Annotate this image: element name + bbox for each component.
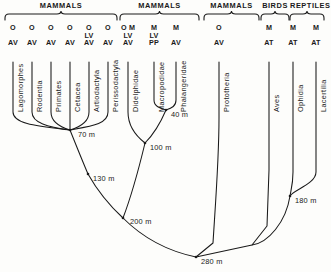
taxon-perissodactyla-name: Perissodactyla [111, 60, 120, 112]
taxon-rodentia-name: Rodentia [35, 80, 44, 112]
group-mammals-placental-bracket [5, 11, 117, 20]
node-100m-dot [144, 142, 147, 145]
taxon-cetacea-name: Cetacea [73, 82, 82, 112]
taxon-phalangeridae-code-0: M [162, 24, 190, 32]
group-mammals-prototheria-bracket [204, 11, 259, 20]
group-reptiles-label: REPTILES [290, 2, 324, 10]
taxon-didelphidae-code-2: AV [114, 39, 142, 47]
taxon-prototheria-code-2: AV [205, 39, 233, 47]
node-180m-dot [289, 195, 292, 198]
group-mammals-marsupial-bracket [120, 11, 199, 20]
node-280m-label: 280 m [201, 257, 223, 266]
taxon-ophidia-name: Ophidia [296, 84, 305, 112]
taxon-prototheria-code-0: O [205, 24, 233, 32]
group-reptiles-bracket [290, 11, 324, 20]
node-100m-label: 100 m [150, 143, 172, 152]
branch-prototheria [196, 62, 219, 257]
node-200m-label: 200 m [130, 217, 152, 226]
taxon-lagomorphes-name: Lagomorphes [16, 64, 25, 112]
node-40m-label: 40 m [171, 110, 188, 119]
group-brackets [5, 11, 324, 20]
branch-aves [196, 62, 269, 257]
node-dots [69, 109, 292, 259]
node-130m-dot [87, 173, 90, 176]
taxon-primates-name: Primates [54, 80, 63, 112]
taxon-phalangeridae-name: Phalangeridae [179, 60, 188, 112]
taxon-macropodidae-name: Macropodidae [157, 62, 166, 112]
taxon-phalangeridae-codes: MAV [162, 24, 190, 47]
taxon-didelphidae-name: Didelphidae [131, 70, 140, 112]
group-mammals-prototheria-label: MAMMALS [204, 2, 259, 10]
node-180m-label: 180 m [295, 196, 317, 205]
taxon-aves-name: Aves [272, 95, 281, 113]
taxon-didelphidae-codes: O MLVAV [114, 24, 142, 47]
taxon-lacertilia-code-0: M [302, 24, 330, 32]
node-280m-dot [195, 256, 198, 259]
group-birds-label: BIRDS [261, 2, 289, 10]
taxon-lacertilia-codes: MAT [302, 24, 330, 47]
node-70m-dot [69, 129, 72, 132]
taxon-prototheria-codes: OAV [205, 24, 233, 47]
taxon-lacertilia-name: Lacertilia [319, 79, 328, 112]
group-mammals-marsupial-label: MAMMALS [120, 2, 199, 10]
branch-phalangeridae [166, 62, 176, 110]
branch-ophidia [290, 62, 293, 196]
branch-100m-to-200m [123, 143, 145, 218]
node-130m-label: 130 m [93, 174, 115, 183]
group-birds-bracket [261, 11, 289, 20]
branch-40m-to-100m [145, 110, 166, 143]
taxon-artiodactyla-name: Artiodactyla [92, 70, 101, 112]
branch-lacertilia [290, 62, 316, 196]
taxon-prototheria-name: Prototheria [222, 72, 231, 112]
node-70m-label: 70 m [78, 130, 95, 139]
taxon-lacertilia-code-2: AT [302, 39, 330, 47]
node-200m-dot [122, 217, 125, 220]
taxon-phalangeridae-code-2: AV [162, 39, 190, 47]
group-mammals-placental-label: MAMMALS [5, 2, 117, 10]
